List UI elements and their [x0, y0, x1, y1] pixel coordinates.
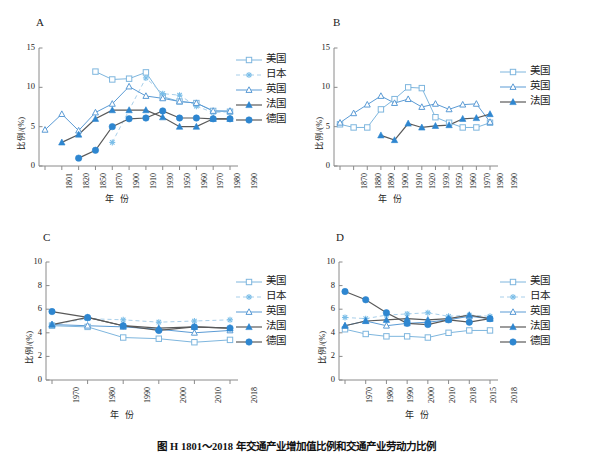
marker-filled-circle — [445, 317, 451, 323]
legend-item-usa[interactable]: 美国 — [500, 272, 550, 287]
marker-filled-circle — [466, 319, 472, 325]
marker-open-square — [384, 334, 389, 339]
marker-open-square — [425, 335, 430, 340]
legend-item-uk[interactable]: 英国 — [500, 302, 550, 317]
marker-open-square — [446, 330, 451, 335]
marker-filled-circle — [487, 315, 493, 321]
marker-open-square — [363, 331, 368, 336]
marker-asterisk — [425, 310, 431, 316]
marker-filled-circle — [342, 288, 348, 294]
legend-swatch-uk — [500, 304, 526, 316]
marker-asterisk — [510, 294, 516, 300]
marker-filled-circle — [510, 338, 516, 344]
legend-d: 美国日本英国法国德国 — [500, 272, 550, 347]
figure-caption: 图 H 1801～2018 年交通产业增加值比例和交通产业劳动力比例 — [0, 438, 593, 453]
legend-label-france: 法国 — [530, 317, 550, 332]
plot-area-d — [0, 0, 593, 457]
legend-swatch-japan — [500, 289, 526, 301]
marker-open-square — [467, 328, 472, 333]
legend-label-japan: 日本 — [530, 287, 550, 302]
marker-open-square — [487, 328, 492, 333]
panel-d: D比例/(%)年 份024681019701980199020002010201… — [0, 0, 593, 457]
marker-open-square — [404, 334, 409, 339]
legend-label-germany: 德国 — [530, 332, 550, 347]
legend-label-usa: 美国 — [530, 272, 550, 287]
legend-item-germany[interactable]: 德国 — [500, 332, 550, 347]
marker-filled-circle — [383, 310, 389, 316]
marker-open-square — [510, 279, 515, 284]
legend-item-japan[interactable]: 日本 — [500, 287, 550, 302]
legend-swatch-france — [500, 319, 526, 331]
marker-asterisk — [342, 314, 348, 320]
marker-filled-circle — [363, 297, 369, 303]
series-markers-usa — [342, 327, 492, 341]
figure-container: A比例/(%)年 份051015180118201850187019001910… — [0, 0, 593, 457]
legend-swatch-germany — [500, 334, 526, 346]
legend-swatch-usa — [500, 274, 526, 286]
marker-filled-circle — [404, 320, 410, 326]
marker-filled-circle — [425, 321, 431, 327]
legend-label-uk: 英国 — [530, 302, 550, 317]
legend-item-france[interactable]: 法国 — [500, 317, 550, 332]
